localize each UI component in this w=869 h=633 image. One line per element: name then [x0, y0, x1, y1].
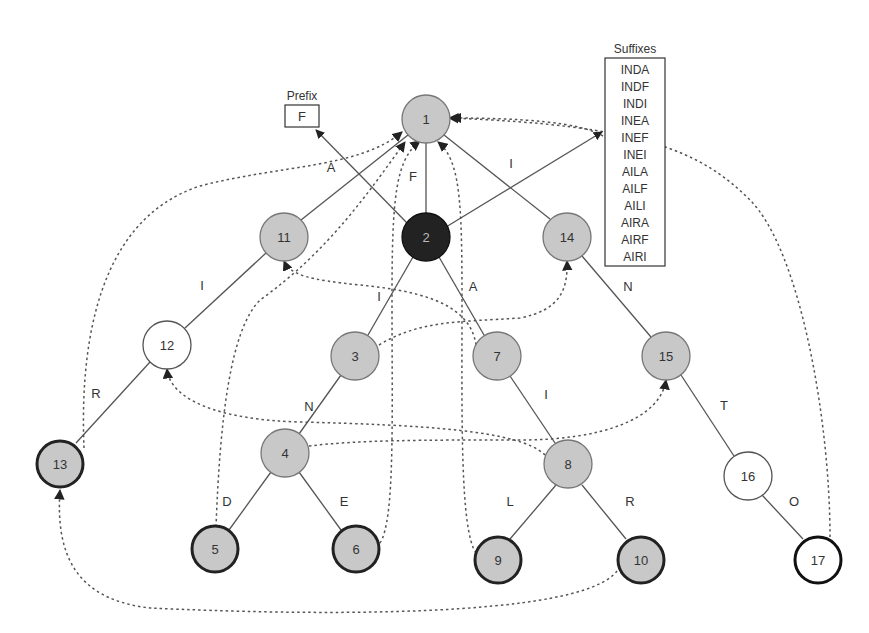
edge-12-13 [76, 362, 150, 443]
svg-text:17: 17 [811, 553, 825, 568]
nodes: 1 2 3 4 5 6 7 8 [37, 95, 841, 583]
link-13-1 [83, 132, 402, 448]
svg-text:12: 12 [160, 338, 174, 353]
suffixes-box: Suffixes INDA INDF INDI INEA INEF INEI A… [605, 42, 665, 266]
edge-8-9 [510, 485, 556, 539]
svg-text:2: 2 [422, 230, 429, 245]
node-1: 1 [402, 95, 450, 143]
node-2: 2 [402, 213, 450, 261]
suffix-item: INEF [621, 131, 648, 145]
suffixes-title: Suffixes [614, 42, 656, 56]
node-9: 9 [475, 537, 521, 583]
edge-4-6 [299, 472, 341, 530]
edge-label-1-11: A [327, 160, 336, 175]
svg-text:15: 15 [659, 349, 673, 364]
edge-7-8 [510, 376, 555, 443]
prefix-box: Prefix F [285, 89, 319, 127]
svg-text:16: 16 [741, 469, 755, 484]
svg-text:8: 8 [564, 457, 571, 472]
edge-2-prefix [316, 130, 408, 224]
suffix-item: AILA [622, 165, 648, 179]
edge-label-2-7: A [469, 279, 478, 294]
link-8-12 [167, 369, 545, 455]
node-10: 10 [618, 537, 664, 583]
edge-label-16-17: O [789, 494, 799, 509]
node-8: 8 [544, 440, 592, 488]
edge-label-2-1: F [409, 169, 417, 184]
node-4: 4 [261, 429, 309, 477]
edge-label-15-16: T [720, 398, 728, 413]
svg-text:13: 13 [53, 457, 67, 472]
node-7: 7 [473, 332, 521, 380]
edge-2-suffixes [446, 132, 602, 227]
edge-14-15 [582, 256, 651, 337]
suffix-item: INDF [621, 80, 649, 94]
edge-11-12 [185, 253, 266, 328]
suffix-item: AIRA [621, 216, 649, 230]
node-3: 3 [331, 332, 379, 380]
svg-text:11: 11 [277, 230, 291, 245]
svg-text:1: 1 [422, 112, 429, 127]
node-15: 15 [642, 332, 690, 380]
svg-text:14: 14 [560, 230, 574, 245]
edge-label-4-5: D [222, 494, 231, 509]
edge-8-10 [582, 485, 626, 539]
svg-text:9: 9 [494, 553, 501, 568]
suffix-item: INEI [623, 148, 646, 162]
edge-15-16 [681, 375, 734, 456]
suffix-item: AIRF [621, 233, 648, 247]
node-13: 13 [37, 441, 83, 487]
suffix-item: INDA [621, 63, 650, 77]
svg-text:5: 5 [211, 542, 218, 557]
node-5: 5 [192, 526, 238, 572]
prefix-title: Prefix [287, 89, 318, 103]
edge-label-4-6: E [340, 494, 349, 509]
edge-label-7-8: I [544, 387, 548, 402]
edge-label-8-9: L [506, 494, 513, 509]
node-12: 12 [143, 321, 191, 369]
link-9-1 [438, 142, 476, 553]
suffix-item: INDI [623, 97, 647, 111]
suffix-tree-diagram: F A I R I N D E A I L R I N T O Prefix F… [0, 0, 869, 633]
svg-text:6: 6 [352, 542, 359, 557]
node-11: 11 [260, 213, 308, 261]
suffix-item: AILF [622, 182, 647, 196]
suffix-item: INEA [621, 114, 649, 128]
suffix-item: AIRI [623, 250, 646, 264]
edge-label-2-3: I [377, 289, 381, 304]
node-16: 16 [724, 452, 772, 500]
edge-label-1-14: I [509, 156, 513, 171]
edge-label-11-12: I [200, 278, 204, 293]
svg-text:4: 4 [281, 446, 288, 461]
link-4-15 [309, 380, 666, 446]
link-suffixes-1 [452, 118, 603, 136]
edge-labels: F A I R I N D E A I L R I N T O [91, 156, 799, 509]
svg-text:3: 3 [351, 349, 358, 364]
edge-label-8-10: R [625, 494, 634, 509]
link-5-1 [216, 142, 405, 527]
suffix-item: AILI [624, 199, 645, 213]
node-17: 17 [795, 537, 841, 583]
edge-label-14-15: N [623, 279, 632, 294]
edge-label-12-13: R [91, 386, 100, 401]
svg-text:7: 7 [493, 349, 500, 364]
prefix-value: F [298, 109, 306, 124]
edge-label-3-4: N [304, 399, 313, 414]
edge-4-5 [229, 472, 271, 530]
node-14: 14 [543, 213, 591, 261]
edge-2-3 [368, 257, 413, 335]
node-6: 6 [333, 526, 379, 572]
svg-text:10: 10 [634, 553, 648, 568]
